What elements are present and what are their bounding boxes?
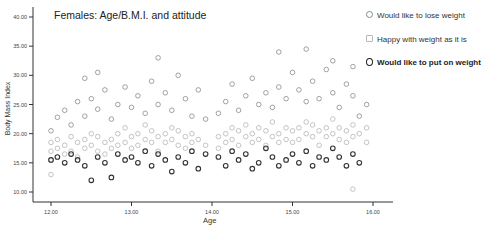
data-point xyxy=(277,85,282,90)
data-point xyxy=(216,155,221,160)
data-point xyxy=(250,131,255,136)
data-point xyxy=(324,158,329,163)
data-point xyxy=(149,164,154,169)
data-point xyxy=(290,70,295,75)
x-tick-label: 14.00 xyxy=(205,209,219,215)
data-point xyxy=(143,137,148,142)
data-point xyxy=(317,129,322,134)
data-point xyxy=(284,126,289,131)
data-point xyxy=(256,137,261,142)
data-point xyxy=(284,158,289,163)
legend-label: Happy with weight as it is xyxy=(377,35,467,44)
data-point xyxy=(176,155,181,160)
data-point xyxy=(223,99,228,104)
data-point xyxy=(176,129,181,134)
data-point xyxy=(310,134,315,139)
data-point xyxy=(136,143,141,148)
data-point xyxy=(337,155,342,160)
data-point xyxy=(236,129,241,134)
data-point xyxy=(116,143,121,148)
data-point xyxy=(83,137,88,142)
circle-marker-icon xyxy=(366,11,373,18)
data-point xyxy=(304,149,309,154)
data-point xyxy=(331,146,336,151)
data-point xyxy=(244,123,249,128)
data-point xyxy=(95,134,100,139)
data-point xyxy=(344,82,349,87)
data-point xyxy=(103,152,108,157)
data-point xyxy=(190,149,195,154)
data-point xyxy=(351,64,356,69)
data-point xyxy=(277,131,282,136)
data-point xyxy=(324,126,329,131)
data-point xyxy=(190,140,195,145)
x-tick-label: 13.00 xyxy=(125,209,139,215)
data-point xyxy=(75,99,80,104)
data-point xyxy=(290,129,295,134)
y-tick-label: 20.00 xyxy=(13,131,27,137)
data-point xyxy=(270,134,275,139)
data-point xyxy=(264,91,269,96)
data-point xyxy=(75,158,80,163)
y-axis-label: Body Mass Index xyxy=(4,69,11,149)
data-point xyxy=(337,137,342,142)
data-point xyxy=(163,140,168,145)
data-point xyxy=(203,117,208,122)
data-point xyxy=(69,152,74,157)
data-point xyxy=(324,134,329,139)
data-point xyxy=(250,166,255,171)
data-point xyxy=(129,155,134,160)
x-tick-label: 12.00 xyxy=(44,209,58,215)
legend-item-put-on-weight: Would like to put on weight xyxy=(366,58,481,67)
data-point xyxy=(364,102,369,107)
x-tick-label: 16.00 xyxy=(366,209,380,215)
data-point xyxy=(304,47,309,52)
data-point xyxy=(223,140,228,145)
data-point xyxy=(109,175,114,180)
data-point xyxy=(290,140,295,145)
data-point xyxy=(129,146,134,151)
data-point xyxy=(297,137,302,142)
data-point xyxy=(143,123,148,128)
data-point xyxy=(156,134,161,139)
data-point xyxy=(337,105,342,110)
data-point xyxy=(103,140,108,145)
data-point xyxy=(62,161,67,166)
data-point xyxy=(170,169,175,174)
data-point xyxy=(123,126,128,131)
data-point xyxy=(156,152,161,157)
data-point xyxy=(116,102,121,107)
data-point xyxy=(196,137,201,142)
y-tick-label: 30.00 xyxy=(13,72,27,78)
data-point xyxy=(270,120,275,125)
axes: 10.0015.0020.0025.0030.0035.0040.0012.00… xyxy=(13,7,393,215)
data-point xyxy=(109,117,114,122)
data-point xyxy=(156,102,161,107)
y-tick-label: 25.00 xyxy=(13,102,27,108)
data-point xyxy=(55,146,60,151)
data-point xyxy=(277,140,282,145)
data-point xyxy=(351,187,356,192)
data-point xyxy=(216,134,221,139)
data-point xyxy=(136,161,141,166)
data-point xyxy=(337,126,342,131)
data-point xyxy=(183,146,188,151)
data-point xyxy=(156,56,161,61)
data-point xyxy=(351,134,356,139)
data-point xyxy=(62,143,67,148)
data-point xyxy=(357,161,362,166)
data-point xyxy=(230,82,235,87)
data-point xyxy=(244,94,249,99)
data-point xyxy=(190,114,195,119)
data-point xyxy=(277,164,282,169)
data-point xyxy=(49,149,54,154)
data-point xyxy=(95,70,100,75)
data-point xyxy=(357,131,362,136)
data-point xyxy=(304,120,309,125)
data-point xyxy=(176,73,181,78)
data-point xyxy=(297,88,302,93)
data-point xyxy=(129,134,134,139)
data-point xyxy=(75,140,80,145)
data-point xyxy=(116,152,121,157)
y-tick-label: 10.00 xyxy=(13,189,27,195)
